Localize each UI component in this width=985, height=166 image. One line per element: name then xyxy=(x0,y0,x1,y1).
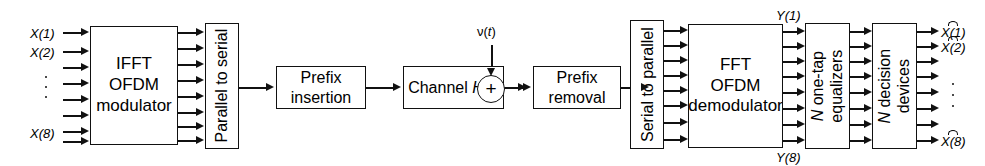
input-label-x2: X(2) xyxy=(30,45,55,60)
input-arrow-2 xyxy=(81,47,89,55)
output-label-xhat2: X(2) xyxy=(941,40,966,55)
mod-out-arrow-3 xyxy=(196,60,204,68)
fft-line1: FFT xyxy=(688,55,783,76)
block-prefix-insertion: Prefix insertion xyxy=(276,66,366,109)
mod-out-wire-5 xyxy=(178,96,198,98)
out-arrow-4 xyxy=(931,72,939,80)
ifft-line3: modulator xyxy=(96,96,172,117)
sp-out-arrow-1 xyxy=(680,26,688,34)
arrow-sum-to-removal xyxy=(523,83,531,91)
mod-out-arrow-2 xyxy=(196,44,204,52)
input-wire-5 xyxy=(63,99,83,101)
out-arrow-6 xyxy=(931,104,939,112)
input-arrow-8 xyxy=(81,137,89,145)
mod-out-arrow-5 xyxy=(196,92,204,100)
noise-label: ν(t) xyxy=(477,24,496,39)
fft-out-arrow-2 xyxy=(797,42,805,50)
prefix-insertion-line1: Prefix xyxy=(291,68,351,88)
block-one-tap-equalizers: N one-tap equalizers xyxy=(805,23,850,149)
block-decision-devices: N decision devices xyxy=(872,23,917,149)
eq-out-arrow-8 xyxy=(864,136,872,144)
sp-out-arrow-5 xyxy=(680,86,688,94)
eq-out-arrow-6 xyxy=(864,104,872,112)
input-arrow-4 xyxy=(81,79,89,87)
sp-out-arrow-4 xyxy=(680,71,688,79)
input-arrow-5 xyxy=(81,95,89,103)
block-prefix-removal: Prefix removal xyxy=(533,66,621,109)
mod-out-wire-2 xyxy=(178,48,198,50)
fft-out-arrow-4 xyxy=(797,72,805,80)
prefix-removal-line1: Prefix xyxy=(549,68,606,88)
mod-out-arrow-7 xyxy=(196,122,204,130)
mod-out-wire-7 xyxy=(178,126,198,128)
fft-out-arrow-1 xyxy=(797,27,805,35)
input-wire-4 xyxy=(63,83,83,85)
mod-out-wire-1 xyxy=(178,32,198,34)
input-arrow-3 xyxy=(81,63,89,71)
input-wire-2 xyxy=(63,51,83,53)
fft-line3: demodulator xyxy=(688,96,783,117)
mod-out-arrow-6 xyxy=(196,108,204,116)
input-label-x1: X(1) xyxy=(30,26,55,41)
decision-n-symbol: N xyxy=(876,112,893,124)
output-ellipsis xyxy=(951,83,955,107)
channel-text: Channel xyxy=(408,79,472,96)
prefix-insertion-line2: insertion xyxy=(291,88,351,108)
decision-line2: devices xyxy=(895,49,914,124)
eq-out-arrow-2 xyxy=(864,42,872,50)
ifft-line1: IFFT xyxy=(96,54,172,75)
noise-arrow xyxy=(487,68,495,76)
fft-out-arrow-3 xyxy=(797,57,805,65)
block-parallel-to-serial: Parallel to serial xyxy=(205,23,239,149)
out-arrow-1 xyxy=(931,27,939,35)
block-ifft-ofdm-modulator: IFFT OFDM modulator xyxy=(90,26,178,145)
fft-out-arrow-7 xyxy=(797,120,805,128)
fft-out-arrow-5 xyxy=(797,88,805,96)
out-arrow-5 xyxy=(931,88,939,96)
output-label-xhat8: X(8) xyxy=(941,134,966,149)
mod-out-arrow-4 xyxy=(196,76,204,84)
input-arrow-7 xyxy=(81,127,89,135)
block-fft-ofdm-demodulator: FFT OFDM demodulator xyxy=(688,24,783,148)
out-arrow-7 xyxy=(931,120,939,128)
equalizers-line1-rest: one-tap xyxy=(809,51,826,110)
input-arrow-1 xyxy=(81,28,89,36)
mod-out-wire-3 xyxy=(178,64,198,66)
sp-out-arrow-6 xyxy=(680,101,688,109)
ofdm-block-diagram: X(1) X(2) X(8) IFFT OFDM modulator xyxy=(0,0,985,166)
input-wire-6 xyxy=(63,115,83,117)
parallel-to-serial-label: Parallel to serial xyxy=(212,29,231,143)
sp-out-arrow-3 xyxy=(680,56,688,64)
mod-out-wire-6 xyxy=(178,112,198,114)
signal-label-y8: Y(8) xyxy=(776,150,801,165)
decision-devices-label: N decision devices xyxy=(875,49,913,124)
sp-out-arrow-7 xyxy=(680,118,688,126)
equalizers-label: N one-tap equalizers xyxy=(808,50,846,123)
mod-out-arrow-1 xyxy=(196,28,204,36)
mod-out-arrow-8 xyxy=(196,136,204,144)
arrow-removal-to-sp xyxy=(641,83,649,91)
out-arrow-2 xyxy=(931,42,939,50)
eq-out-arrow-5 xyxy=(864,88,872,96)
mod-out-wire-4 xyxy=(178,80,198,82)
sp-out-arrow-2 xyxy=(680,41,688,49)
equalizers-n-symbol: N xyxy=(809,110,826,122)
prefix-removal-line2: removal xyxy=(549,88,606,108)
fft-out-arrow-6 xyxy=(797,104,805,112)
input-wire-8 xyxy=(63,141,83,143)
arrow-ps-to-prefix xyxy=(266,83,274,91)
input-ellipsis xyxy=(44,76,48,98)
eq-out-arrow-4 xyxy=(864,72,872,80)
input-label-x8: X(8) xyxy=(30,126,55,141)
decision-line1-rest: decision xyxy=(876,49,893,112)
fft-line2: OFDM xyxy=(688,76,783,97)
summing-junction-plus: + xyxy=(485,79,496,98)
equalizers-line2: equalizers xyxy=(828,50,847,123)
out-arrow-8 xyxy=(931,136,939,144)
input-wire-3 xyxy=(63,67,83,69)
arrow-prefix-to-channel xyxy=(393,83,401,91)
out-arrow-3 xyxy=(931,57,939,65)
ifft-line2: OFDM xyxy=(96,75,172,96)
sp-out-arrow-8 xyxy=(680,135,688,143)
fft-out-arrow-8 xyxy=(797,136,805,144)
